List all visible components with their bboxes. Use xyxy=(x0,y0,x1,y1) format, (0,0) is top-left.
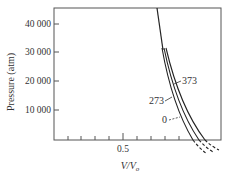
curve-label-373: 373 xyxy=(182,75,197,86)
y-tick-label: 20 000 xyxy=(25,76,51,86)
x-tick-label: 0.5 xyxy=(117,144,129,154)
leader-arrow-icon xyxy=(169,117,180,120)
isotherm-273-extrapolation xyxy=(199,140,213,152)
leader-arrow-icon xyxy=(165,97,172,101)
isotherm-common-segment xyxy=(157,8,163,50)
curve-label-0: 0 xyxy=(162,114,167,125)
plot-frame xyxy=(54,8,221,140)
y-tick-label: 10 000 xyxy=(25,105,51,115)
chart: 40 000 30 000 20 000 10 000 Pressure (at… xyxy=(0,0,229,180)
curve-label-273: 273 xyxy=(149,95,164,106)
y-axis-title: Pressure (atm) xyxy=(5,53,17,111)
x-axis xyxy=(68,133,179,140)
x-axis-title: V/Vo xyxy=(121,160,140,173)
y-axis xyxy=(54,24,59,110)
isotherm-0-extrapolation xyxy=(193,140,207,154)
y-tick-label: 40 000 xyxy=(25,19,51,29)
y-tick-label: 30 000 xyxy=(25,47,51,57)
